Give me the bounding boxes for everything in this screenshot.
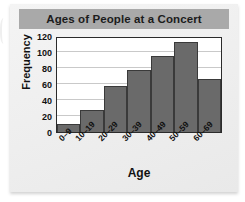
bar-series — [57, 38, 221, 132]
y-tick-label: 100 — [22, 48, 52, 58]
x-axis-ticks: 0–910–1920–2930–3940–4950–5960–69 — [56, 133, 222, 143]
y-tick-label: 0 — [22, 128, 52, 138]
y-tick-label: 40 — [22, 96, 52, 106]
plot-area — [56, 37, 222, 133]
plot-area-wrapper: Frequency 020406080100120 0–910–1920–293… — [10, 4, 238, 192]
bar — [174, 42, 197, 132]
y-axis-ticks: 020406080100120 — [22, 4, 52, 192]
y-tick-label: 80 — [22, 64, 52, 74]
y-tick-label: 20 — [22, 112, 52, 122]
chart-card: Ages of People at a Concert Frequency 02… — [10, 4, 238, 192]
y-tick-label: 60 — [22, 80, 52, 90]
y-tick-label: 120 — [22, 32, 52, 42]
page-edge-mark — [0, 18, 9, 44]
x-tick-slot: 60–69 — [198, 133, 222, 143]
x-axis-title: Age — [56, 166, 222, 180]
